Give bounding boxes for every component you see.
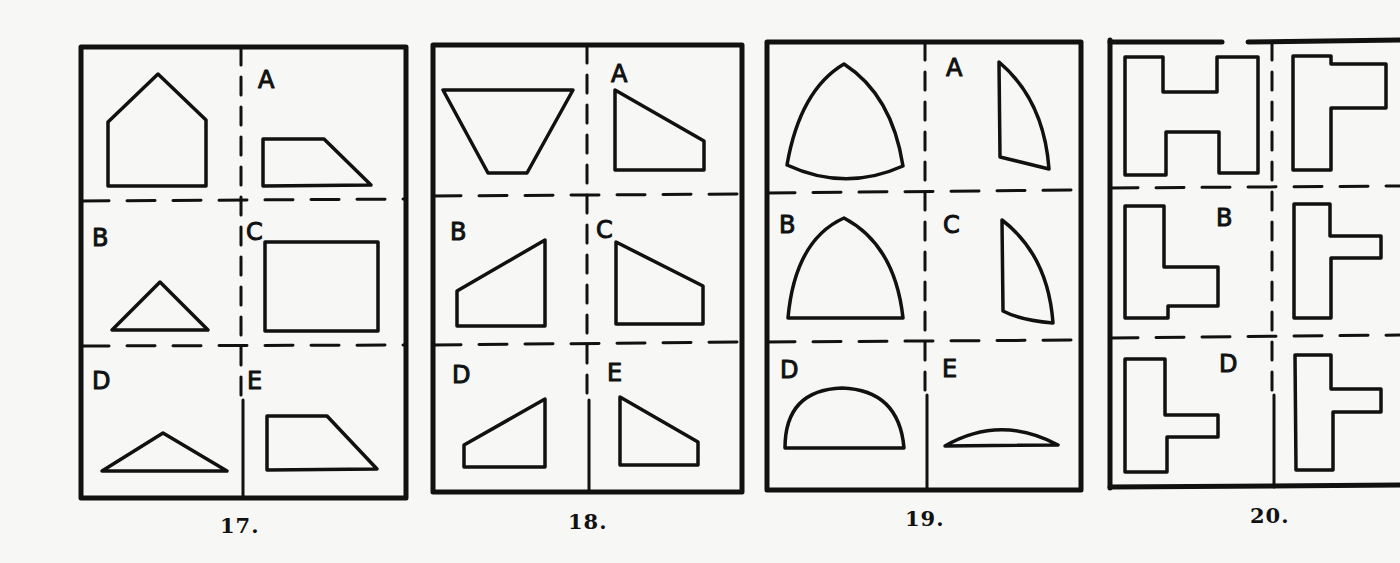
- puzzle-17-label-e: E: [247, 367, 262, 395]
- puzzle-19-label-b: B: [779, 211, 795, 239]
- puzzle-17-label-b: B: [92, 224, 108, 252]
- puzzle-19-option-d-shape: [785, 388, 904, 448]
- puzzle-20-number: 20.: [1250, 503, 1290, 528]
- puzzle-17-given-shape: [108, 74, 206, 186]
- puzzle-figures: A B C D E A B C: [0, 0, 1400, 563]
- puzzle-19-option-c-shape: [1002, 220, 1053, 323]
- puzzle-17-option-c-shape: [265, 242, 378, 331]
- puzzle-20-option-a-shape: [1293, 56, 1386, 170]
- puzzle-page: A B C D E A B C: [0, 0, 1400, 563]
- puzzle-20-option-d-shape: [1125, 359, 1218, 472]
- puzzle-18-option-e-shape: [620, 397, 698, 465]
- puzzle-19-given-shape: [787, 64, 903, 179]
- puzzle-19-label-d: D: [780, 356, 798, 384]
- puzzle-18-number: 18.: [568, 509, 608, 534]
- puzzle-19-panel: A B C D E: [767, 42, 1081, 490]
- puzzle-19-option-a-shape: [999, 62, 1049, 169]
- puzzle-19-label-e: E: [942, 355, 957, 383]
- puzzle-18-label-a: A: [611, 60, 628, 88]
- puzzle-17-label-c: C: [246, 218, 263, 246]
- puzzle-18-option-c-shape: [616, 242, 703, 324]
- puzzle-19-number: 19.: [905, 506, 945, 531]
- puzzle-17-option-a-shape: [263, 139, 371, 186]
- puzzle-17-option-e-shape: [267, 416, 377, 470]
- puzzle-17-panel: A B C D E: [81, 47, 406, 498]
- puzzle-18-panel: A B C D E: [433, 45, 742, 492]
- puzzle-19-option-e-shape: [945, 430, 1058, 446]
- puzzle-18-label-b: B: [450, 218, 466, 246]
- puzzle-18-label-c: C: [596, 216, 613, 244]
- puzzle-19-option-b-shape: [788, 218, 903, 318]
- puzzle-17-label-d: D: [92, 367, 110, 395]
- puzzle-18-option-b-shape: [457, 240, 545, 326]
- puzzle-20-option-b-shape: [1125, 206, 1218, 318]
- puzzle-20-label-b: B: [1216, 204, 1232, 232]
- puzzle-20-label-d: D: [1219, 350, 1237, 378]
- puzzle-18-option-d-shape: [464, 399, 545, 467]
- puzzle-17-number: 17.: [220, 513, 260, 538]
- puzzle-17-label-a: A: [258, 66, 275, 94]
- puzzle-19-label-a: A: [946, 54, 963, 82]
- puzzle-18-label-e: E: [607, 359, 622, 387]
- puzzle-17-option-d-shape: [102, 433, 227, 471]
- puzzle-20-option-e-shape: [1295, 355, 1381, 470]
- puzzle-20-panel: B D: [1110, 40, 1400, 488]
- puzzle-20-option-c-shape: [1294, 204, 1381, 318]
- puzzle-19-label-c: C: [943, 211, 960, 239]
- puzzle-18-option-a-shape: [615, 90, 704, 170]
- puzzle-18-label-d: D: [452, 361, 470, 389]
- puzzle-20-given-shape: [1125, 57, 1258, 175]
- puzzle-17-option-b-shape: [112, 282, 208, 330]
- puzzle-18-given-shape: [443, 90, 573, 173]
